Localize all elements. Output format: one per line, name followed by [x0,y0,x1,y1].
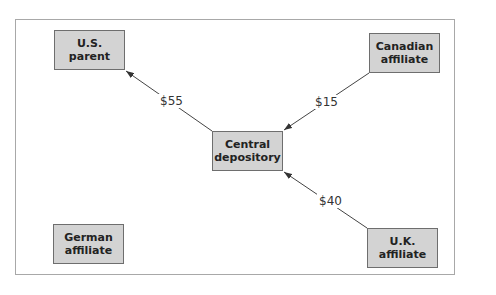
node-label: Canadian [376,40,434,53]
node-label: depository [214,151,281,164]
node-german-affiliate: Germanaffiliate [53,224,124,264]
node-canadian-affiliate: Canadianaffiliate [369,33,440,73]
node-label: affiliate [379,248,426,261]
node-us-parent: U.S.parent [54,30,125,70]
edge-label-55: $55 [158,94,185,108]
edge-label-15: $15 [313,95,340,109]
node-label: affiliate [376,53,434,66]
node-label: parent [69,50,110,63]
node-label: Central [214,138,281,151]
node-label: U.S. [69,37,110,50]
node-central-depository: Centraldepository [212,131,283,171]
edge-label-40: $40 [317,194,344,208]
node-label: German [64,231,113,244]
node-label: U.K. [379,235,426,248]
node-uk-affiliate: U.K.affiliate [367,228,438,268]
node-label: affiliate [64,244,113,257]
